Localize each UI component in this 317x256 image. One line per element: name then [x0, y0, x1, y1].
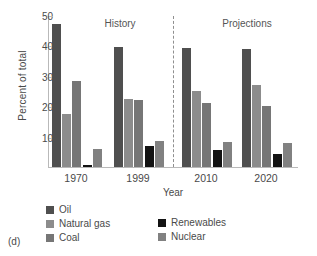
bar-1970-natural-gas — [62, 114, 71, 167]
bar-group-2020 — [242, 16, 292, 167]
legend-swatch-nuclear — [158, 233, 166, 241]
bar-group-1999 — [114, 16, 164, 167]
bar-2020-natural-gas — [252, 85, 261, 167]
legend-item-oil: Oil — [46, 203, 110, 216]
history-projection-divider — [173, 16, 174, 167]
bar-1999-oil — [114, 47, 123, 167]
legend-column-secondary: RenewablesNuclear — [158, 216, 226, 244]
bar-2010-oil — [182, 48, 191, 167]
y-tick-label-10: 10 — [19, 133, 53, 143]
bar-2020-oil — [242, 49, 251, 167]
bar-1999-renewables — [145, 146, 154, 167]
legend-swatch-oil — [46, 206, 54, 214]
x-tick-label-1970: 1970 — [46, 172, 106, 184]
legend-label-coal: Coal — [59, 232, 80, 243]
legend-swatch-renewables — [158, 219, 166, 227]
legend-column-primary: OilNatural gasCoal — [46, 203, 110, 245]
y-tick-label-40: 40 — [19, 41, 53, 51]
bar-group-2010 — [182, 16, 232, 167]
bar-1970-renewables — [83, 165, 92, 167]
bar-group-1970 — [52, 16, 102, 167]
x-tick-label-2020: 2020 — [236, 172, 296, 184]
panel-caption: (d) — [8, 236, 20, 247]
y-tick-label-50: 50 — [19, 11, 53, 21]
bar-2010-nuclear — [223, 142, 232, 167]
legend-item-nuclear: Nuclear — [158, 230, 226, 243]
bar-2020-nuclear — [283, 143, 292, 167]
bar-2020-coal — [262, 106, 271, 167]
bar-1970-oil — [52, 24, 61, 167]
legend-item-natural-gas: Natural gas — [46, 217, 110, 230]
legend-label-oil: Oil — [59, 204, 71, 215]
legend-label-renewables: Renewables — [171, 217, 226, 228]
plot-area: 1020304050 HistoryProjections — [48, 16, 298, 168]
legend-label-natural-gas: Natural gas — [59, 218, 110, 229]
y-tick-label-30: 30 — [19, 72, 53, 82]
bar-2010-natural-gas — [192, 91, 201, 167]
legend-swatch-natural-gas — [46, 220, 54, 228]
x-axis-title: Year — [48, 187, 298, 198]
x-tick-label-1999: 1999 — [108, 172, 168, 184]
legend-item-renewables: Renewables — [158, 216, 226, 229]
legend-label-nuclear: Nuclear — [171, 231, 205, 242]
bar-2010-coal — [202, 103, 211, 167]
x-tick-label-2010: 2010 — [176, 172, 236, 184]
bar-1970-nuclear — [93, 149, 102, 167]
bar-2010-renewables — [213, 150, 222, 167]
bar-2020-renewables — [273, 154, 282, 167]
bar-1999-natural-gas — [124, 99, 133, 167]
bar-1999-coal — [134, 100, 143, 167]
legend-swatch-coal — [46, 234, 54, 242]
bar-1970-coal — [72, 81, 81, 167]
legend-item-coal: Coal — [46, 231, 110, 244]
figure-panel-d: Percent of total 1020304050 HistoryProje… — [0, 0, 317, 256]
chart-legend: OilNatural gasCoal RenewablesNuclear — [46, 203, 296, 247]
y-tick-label-20: 20 — [19, 102, 53, 112]
bar-1999-nuclear — [155, 141, 164, 167]
